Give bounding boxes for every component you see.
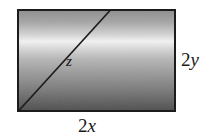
label-height: 2y [181,50,199,69]
geometry-figure: z 2y 2x [0,0,204,140]
label-width: 2x [78,116,96,135]
label-height-coefficient: 2 [181,49,191,70]
label-width-variable: x [88,115,96,136]
label-diagonal-variable: z [66,53,72,69]
label-diagonal: z [66,54,72,69]
label-height-variable: y [191,49,199,70]
figure-canvas [0,0,204,140]
label-width-coefficient: 2 [78,115,88,136]
